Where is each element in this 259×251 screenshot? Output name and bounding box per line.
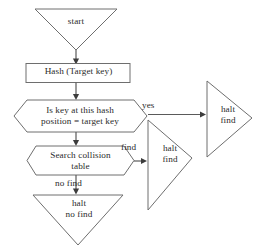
node-halt-find-right-label: halt find	[210, 104, 246, 125]
edge-label-find: find	[121, 142, 136, 153]
node-start-label: start	[35, 16, 117, 27]
edge-hash-to-is-key-arrowhead	[73, 94, 79, 100]
edge-is-key-to-search-arrowhead	[73, 140, 79, 146]
node-hash-label: Hash (Target key)	[27, 66, 130, 77]
edge-label-no-find: no find	[55, 178, 82, 189]
node-halt-find-middle-shape[interactable]	[148, 120, 192, 210]
node-halt-find-middle-label: halt find	[152, 143, 188, 164]
node-halt-no-find-label: halt no find	[36, 198, 122, 219]
edge-label-yes: yes	[142, 100, 155, 111]
flowchart-canvas: start Hash (Target key) Is key at this h…	[0, 0, 259, 251]
edge-search-no-find-arrowhead	[73, 189, 79, 195]
node-is-key-at-hash-label: Is key at this hash position = target ke…	[20, 105, 140, 126]
edge-search-find-arrowhead	[141, 158, 147, 164]
node-search-collision-label: Search collision table	[33, 150, 128, 171]
edge-is-key-yes-arrowhead	[200, 111, 206, 117]
